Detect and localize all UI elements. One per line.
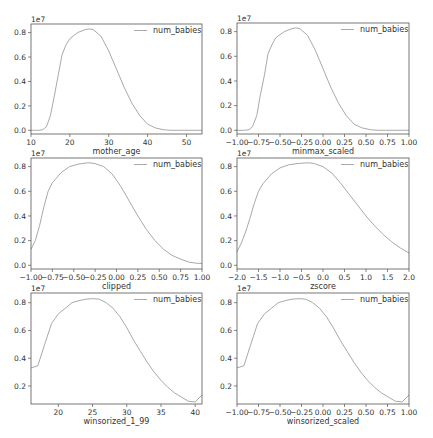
series-line-num-babies [31,163,202,264]
y-tick-label: 0.6 [220,52,232,61]
legend-label: num_babies [153,26,201,35]
y-tick-label: 0.6 [220,326,232,335]
chart-winsorized_1_99: 0.20.40.60.82025303540winsorized_1_991e7… [14,284,202,426]
x-tick-label: 0.50 [358,408,375,417]
y-tick-label: 0.4 [14,212,26,221]
x-tick-label: 1.00 [401,408,418,417]
x-tick-label: 50 [182,138,192,147]
legend-label: num_babies [360,295,408,304]
x-tick-label: 0.25 [336,138,353,147]
chart-clipped: 0.00.20.40.60.8−1.00−0.75−0.50−0.250.000… [14,149,211,291]
x-tick-label: −1.00 [226,408,249,417]
plot-frame [237,293,409,404]
y-tick-label: 0.4 [220,77,232,86]
x-tick-label: −1.00 [226,138,249,147]
y-tick-label: 0.0 [220,126,232,135]
x-tick-label: 0.00 [315,138,332,147]
x-tick-label: 1.5 [382,273,394,282]
plot-frame [237,23,409,134]
x-tick-label: 10 [26,138,36,147]
legend-label: num_babies [360,25,408,34]
x-tick-label: 30 [122,408,132,417]
x-axis-label: winsorized_scaled [287,417,359,426]
x-tick-label: 0.75 [379,408,396,417]
x-tick-label: 0.25 [130,273,147,282]
x-tick-label: −0.75 [41,273,64,282]
y-tick-label: 0.4 [14,354,26,363]
legend-label: num_babies [360,160,408,169]
y-offset-label: 1e7 [31,284,45,293]
x-tick-label: 40 [190,408,200,417]
y-offset-label: 1e7 [31,15,45,24]
legend-label: num_babies [153,295,201,304]
x-tick-label: 0.5 [339,273,351,282]
x-tick-label: −0.25 [290,138,313,147]
x-tick-label: 25 [88,408,98,417]
x-tick-label: 2.0 [403,273,415,282]
x-tick-label: 1.0 [360,273,372,282]
y-tick-label: 0.4 [220,354,232,363]
y-tick-label: 0.2 [220,236,232,245]
y-tick-label: 0.2 [14,236,26,245]
y-tick-label: 0.8 [14,28,26,37]
y-tick-label: 0.2 [14,382,26,391]
y-tick-label: 0.0 [14,126,26,135]
y-tick-label: 0.6 [14,326,26,335]
x-axis-label: minmax_scaled [292,147,354,156]
x-tick-label: −0.25 [290,408,313,417]
plot-frame [31,158,202,269]
plot-frame [31,24,202,134]
x-tick-label: −0.50 [62,273,85,282]
x-tick-label: −0.50 [269,408,292,417]
x-tick-label: 1.00 [194,273,211,282]
chart-mother_age: 0.00.20.40.60.81020304050mother_age1e7nu… [14,15,202,156]
x-tick-label: 0.75 [379,138,396,147]
x-tick-label: 35 [156,408,166,417]
x-axis-label: clipped [102,282,131,291]
x-tick-label: −0.75 [247,408,270,417]
y-tick-label: 0.8 [220,298,232,307]
y-tick-label: 0.8 [14,162,26,171]
legend-label: num_babies [153,160,201,169]
y-tick-label: 0.4 [14,77,26,86]
x-axis-label: mother_age [92,147,140,156]
y-tick-label: 0.2 [14,102,26,111]
x-axis-label: zscore [310,282,336,291]
x-tick-label: −0.75 [247,138,270,147]
y-offset-label: 1e7 [237,284,251,293]
y-tick-label: 0.2 [220,101,232,110]
series-line-num-babies [31,29,202,130]
plot-frame [237,158,409,269]
x-tick-label: 0.75 [172,273,189,282]
x-axis-label: winsorized_1_99 [84,417,150,426]
x-tick-label: −2.0 [228,273,246,282]
y-tick-label: 0.6 [14,53,26,62]
y-tick-label: 0.6 [14,187,26,196]
x-tick-label: 0.00 [315,408,332,417]
small-multiples-figure: 0.00.20.40.60.81020304050mother_age1e7nu… [0,0,433,438]
x-tick-label: 20 [65,138,75,147]
y-tick-label: 0.2 [220,382,232,391]
series-line-num-babies [237,28,409,130]
series-line-num-babies [31,299,202,402]
x-tick-label: 20 [54,408,64,417]
x-tick-label: −0.5 [292,273,310,282]
y-offset-label: 1e7 [237,14,251,23]
y-tick-label: 0.6 [220,187,232,196]
x-tick-label: −1.00 [20,273,43,282]
x-tick-label: 0.50 [358,138,375,147]
x-tick-label: 0.00 [108,273,125,282]
y-tick-label: 0.8 [14,298,26,307]
y-tick-label: 0.0 [220,261,232,270]
x-tick-label: 0.25 [336,408,353,417]
y-offset-label: 1e7 [31,149,45,158]
y-tick-label: 0.4 [220,212,232,221]
x-tick-label: 0.0 [317,273,329,282]
plot-frame [31,293,202,404]
series-line-num-babies [237,163,409,253]
x-tick-label: −1.5 [249,273,267,282]
chart-zscore: 0.00.20.40.60.8−2.0−1.5−1.0−0.50.00.51.0… [220,149,415,291]
x-tick-label: 40 [143,138,153,147]
x-tick-label: 30 [104,138,114,147]
y-tick-label: 0.8 [220,162,232,171]
